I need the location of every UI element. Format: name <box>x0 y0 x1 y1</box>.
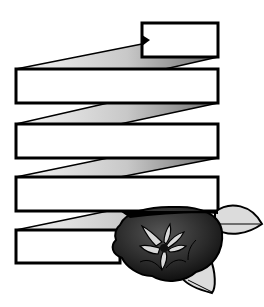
fold-3 <box>16 158 218 177</box>
panel-1 <box>16 69 218 103</box>
panel-3 <box>16 177 218 211</box>
ribbon-illustration <box>0 0 264 307</box>
fold-2 <box>16 103 218 124</box>
ribbon-svg <box>0 0 264 307</box>
panel-4 <box>16 230 120 263</box>
flower-center <box>160 244 168 252</box>
panel-top <box>142 23 218 57</box>
panel-2 <box>16 124 218 158</box>
